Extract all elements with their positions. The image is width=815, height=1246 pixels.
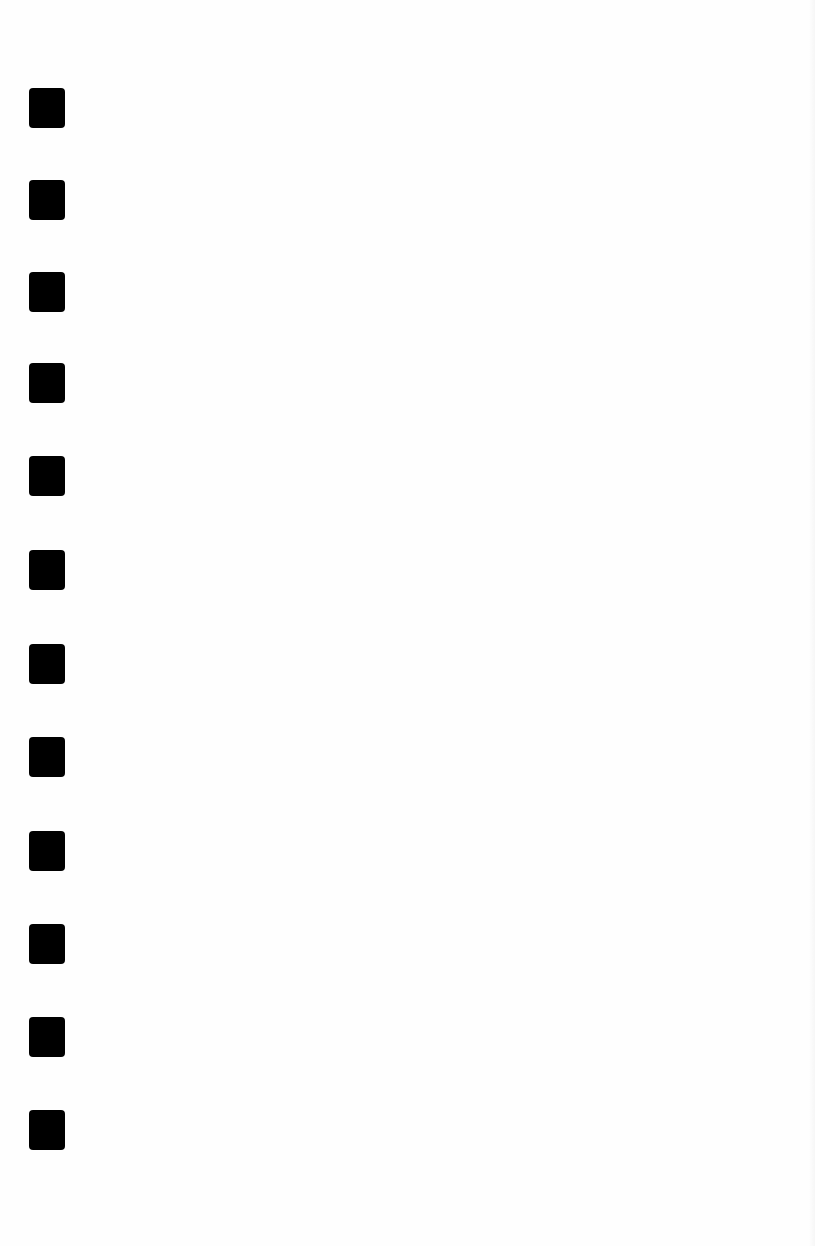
margin-marker-square — [29, 88, 65, 128]
margin-marker-square — [29, 550, 65, 590]
margin-marker-square — [29, 1110, 65, 1150]
page-edge-shadow — [809, 0, 815, 1246]
margin-marker-square — [29, 924, 65, 964]
margin-marker-square — [29, 180, 65, 220]
scanned-page — [0, 0, 815, 1246]
margin-marker-square — [29, 737, 65, 777]
margin-marker-square — [29, 644, 65, 684]
margin-marker-square — [29, 456, 65, 496]
margin-marker-square — [29, 831, 65, 871]
margin-marker-square — [29, 363, 65, 403]
margin-marker-square — [29, 272, 65, 312]
margin-marker-square — [29, 1017, 65, 1057]
